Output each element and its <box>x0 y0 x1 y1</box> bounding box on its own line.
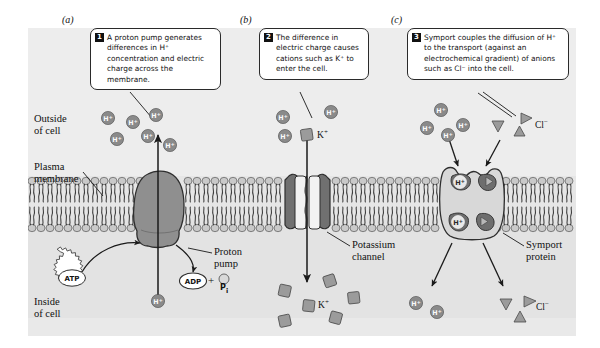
chloride-ion-label-outside: Cl− <box>535 118 548 130</box>
symport-protein-label: Symport protein <box>526 239 562 263</box>
proton-pump-label: Proton pump <box>214 246 242 270</box>
callout-2: 2 The difference in electric charge caus… <box>259 28 369 80</box>
proton-pump-protein <box>134 171 184 247</box>
plus-sign-label: + <box>208 274 214 286</box>
svg-text:ATP: ATP <box>65 275 80 283</box>
proton-inside-panel-a: H+ <box>151 294 164 307</box>
callout-1-number: 1 <box>95 33 104 42</box>
inside-of-cell-label: Inside of cell <box>34 296 61 320</box>
phosphate-label: Pi <box>220 283 228 295</box>
chloride-ion-label-inside: Cl− <box>536 300 549 312</box>
panel-letter-c: (c) <box>391 14 402 25</box>
callout-2-text: The difference in electric charge causes… <box>276 33 363 75</box>
panel-letter-a: (a) <box>62 14 74 25</box>
plasma-membrane-label: Plasma membrane <box>34 161 78 185</box>
callout-2-number: 2 <box>264 33 273 42</box>
symport-protein: H+ H+ <box>440 168 505 240</box>
adp-molecule: ADP <box>180 273 207 289</box>
potassium-channel-label: Potassium channel <box>352 239 395 263</box>
callout-3: 3 Symport couples the diffusion of H⁺ to… <box>407 28 569 80</box>
callout-3-number: 3 <box>412 33 421 42</box>
potassium-ion-label-inside: K+ <box>318 298 329 310</box>
svg-text:ADP: ADP <box>185 278 201 286</box>
callout-1-text: A proton pump generates differences in H… <box>107 33 215 85</box>
outside-of-cell-label: Outside of cell <box>34 113 67 137</box>
callout-3-text: Symport couples the diffusion of H⁺ to t… <box>424 33 563 75</box>
panel-letter-b: (b) <box>240 14 252 25</box>
figure-canvas: H+ H+ <box>0 0 600 348</box>
potassium-ion-label-outside: K+ <box>317 128 328 140</box>
callout-1: 1 A proton pump generates differences in… <box>90 28 221 90</box>
